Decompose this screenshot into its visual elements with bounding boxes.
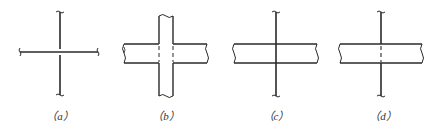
panel-a-drawing bbox=[19, 11, 99, 96]
panel-b-label: （b） bbox=[152, 107, 180, 123]
panel-a-label: （a） bbox=[46, 107, 74, 123]
panel-c-drawing bbox=[233, 11, 319, 97]
panel-c-label: （c） bbox=[263, 107, 290, 123]
panel-d-label: （d） bbox=[369, 107, 397, 123]
panel-d-drawing bbox=[339, 11, 424, 97]
panel-b-drawing bbox=[123, 15, 209, 98]
